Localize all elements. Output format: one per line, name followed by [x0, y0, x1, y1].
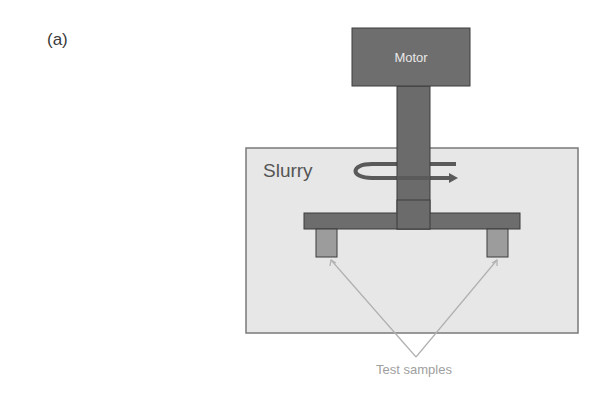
shaft-lower — [397, 200, 430, 229]
stirring-apparatus-diagram: Slurry Motor Test samples — [0, 0, 612, 393]
motor-label: Motor — [394, 50, 428, 65]
motor-box: Motor — [352, 28, 470, 86]
test-sample-left — [316, 229, 337, 257]
test-sample-right — [487, 229, 508, 257]
test-samples-label: Test samples — [376, 362, 452, 377]
slurry-label: Slurry — [263, 160, 313, 181]
